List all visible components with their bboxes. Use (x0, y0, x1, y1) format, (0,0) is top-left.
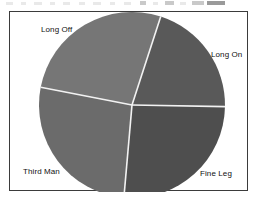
pie-chart-svg (10, 12, 249, 192)
scan-artifacts (0, 0, 258, 10)
pie-chart-plot-area (10, 12, 249, 192)
pie-slice-label-long-on: Long On (211, 50, 242, 60)
pie-slice-label-fine-leg: Fine Leg (200, 169, 232, 179)
pie-slice-label-third-man: Third Man (23, 167, 60, 177)
pie-chart-frame: Long Off Long On Third Man Fine Leg (9, 11, 248, 191)
pie-slice-label-long-off: Long Off (41, 25, 72, 35)
